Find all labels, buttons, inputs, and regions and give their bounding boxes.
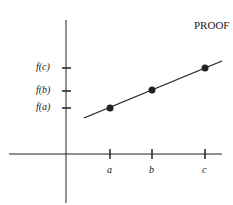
y-label-fa: f(a)	[36, 101, 50, 112]
point-b	[149, 87, 156, 94]
y-label-fb: f(b)	[36, 84, 50, 95]
point-a	[107, 105, 114, 112]
point-c	[202, 65, 209, 72]
x-label-c: c	[202, 164, 206, 175]
x-label-a: a	[107, 164, 112, 175]
x-label-b: b	[149, 164, 154, 175]
proof-title: PROOF	[194, 19, 229, 31]
y-label-fc: f(c)	[36, 61, 50, 72]
